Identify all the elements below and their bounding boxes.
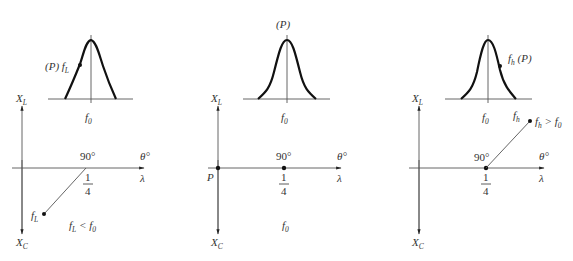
fraction-numerator: 1 — [483, 171, 489, 183]
f0-label: f0 — [281, 111, 288, 126]
curve-point-label: fh (P) — [508, 52, 532, 67]
lambda-label: λ — [538, 172, 544, 184]
fl-point-dot — [42, 212, 46, 216]
fl-point-label: fL — [31, 209, 38, 224]
axis-xc-label: XC — [210, 236, 224, 251]
angle-90-label: 90° — [80, 150, 95, 162]
axis-xc-label: XC — [15, 236, 29, 251]
relation-label: fh > f0 — [535, 115, 562, 130]
curve-point-label: (P) fL — [45, 60, 69, 75]
fraction-denominator: 4 — [85, 185, 91, 197]
resonance-curve-center: (P) f0 — [243, 18, 330, 126]
axis-xl-label: XL — [210, 92, 222, 107]
f0-label: f0 — [85, 111, 92, 126]
lambda-label: λ — [139, 172, 145, 184]
impedance-axes-high: XL XC 90° θ° λ 1 4 fh > f0 — [409, 92, 562, 251]
impedance-trace — [486, 121, 530, 168]
relation-label: fL < f0 — [69, 219, 96, 234]
relation-label: f0 — [282, 219, 289, 234]
fraction-numerator: 1 — [85, 171, 91, 183]
panel-resonance: (P) f0 XL XC P 90° θ° λ 1 — [206, 18, 347, 251]
impedance-axes-low: XL XC 90° θ° λ 1 4 fL fL < f0 — [12, 92, 150, 251]
theta-label: θ° — [337, 150, 347, 162]
f0-label: f0 — [482, 111, 489, 126]
fraction-denominator: 4 — [483, 185, 489, 197]
theta-label: θ° — [140, 150, 150, 162]
resonance-curve-high: fh (P) f0 fh — [445, 35, 532, 126]
curve-top-label: (P) — [276, 18, 290, 31]
operating-point-dot — [78, 63, 82, 67]
impedance-trace — [44, 168, 86, 214]
lambda-label: λ — [336, 172, 342, 184]
axis-xl-label: XL — [411, 92, 423, 107]
impedance-axes-center: XL XC P 90° θ° λ 1 4 f0 — [206, 92, 347, 251]
fraction-numerator: 1 — [281, 171, 287, 183]
theta-label: θ° — [539, 150, 549, 162]
origin-p-label: P — [206, 171, 214, 183]
fh-label: fh — [513, 109, 520, 124]
axis-xl-label: XL — [15, 92, 27, 107]
operating-point-dot — [498, 64, 502, 68]
angle-90-label: 90° — [276, 150, 291, 162]
origin-point-dot — [216, 166, 220, 170]
panel-low-frequency: (P) fL f0 XL XC 90° θ° λ 1 4 — [12, 35, 150, 251]
diagram-canvas: (P) fL f0 XL XC 90° θ° λ 1 4 — [0, 0, 573, 261]
panel-high-frequency: fh (P) f0 fh XL XC 90° θ° λ 1 — [409, 35, 562, 251]
axis-xc-label: XC — [411, 236, 425, 251]
fraction-denominator: 4 — [281, 185, 287, 197]
angle-90-label: 90° — [474, 151, 489, 163]
resonance-curve-low: (P) fL f0 — [45, 35, 133, 126]
fh-point-dot — [528, 119, 532, 123]
quarter-wave-dot — [282, 166, 286, 170]
